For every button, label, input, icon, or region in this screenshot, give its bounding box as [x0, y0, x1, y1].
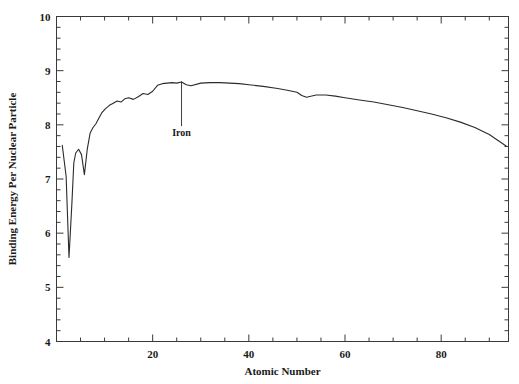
plot-frame — [57, 17, 509, 342]
y-tick-label: 8 — [45, 119, 51, 131]
x-tick-label: 40 — [243, 348, 255, 360]
y-tick-label: 5 — [45, 281, 51, 293]
y-axis-title: Binding Energy Per Nuclear Particle — [6, 93, 18, 266]
x-axis-title: Atomic Number — [244, 365, 320, 377]
annotation-label-iron: Iron — [172, 127, 191, 138]
y-tick-label: 7 — [45, 173, 51, 185]
x-tick-label: 80 — [436, 348, 448, 360]
y-tick-label: 4 — [45, 336, 51, 348]
chart-canvas: 20406080Atomic Number45678910Binding Ene… — [0, 0, 519, 384]
y-tick-label: 9 — [45, 65, 51, 77]
x-tick-label: 60 — [340, 348, 352, 360]
x-tick-label: 20 — [147, 348, 159, 360]
data-line-binding-energy — [62, 82, 506, 258]
y-tick-label: 6 — [45, 227, 51, 239]
binding-energy-chart: 20406080Atomic Number45678910Binding Ene… — [0, 0, 519, 384]
y-tick-label: 10 — [40, 11, 52, 23]
